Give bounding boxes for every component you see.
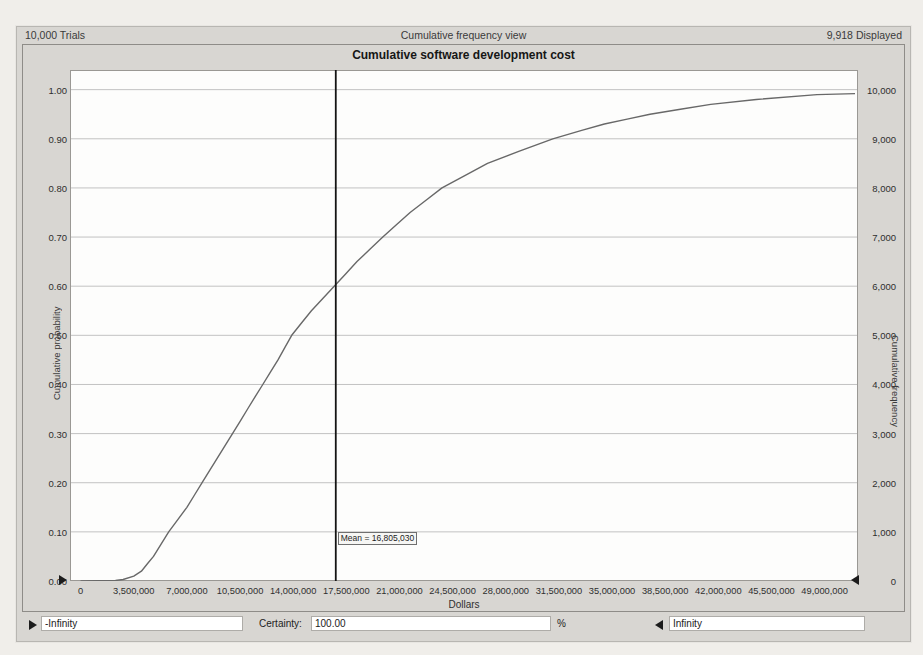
upper-bound-grabber-arrow[interactable] (851, 575, 859, 585)
x-tick-label: 21,000,000 (376, 586, 423, 596)
x-tick-label: 45,500,000 (748, 586, 795, 596)
y-tick-label-left: 0.70 (33, 232, 67, 243)
y-tick-label-right: 2,000 (862, 478, 896, 489)
lower-bound-input[interactable] (41, 616, 243, 631)
chart-title: Cumulative software development cost (23, 48, 904, 62)
y-tick-label-left: 0.10 (33, 527, 67, 538)
x-tick-label: 3,500,000 (113, 586, 154, 596)
chart-frame: Cumulative software development cost 0.0… (22, 44, 905, 612)
percent-sign: % (557, 618, 566, 629)
certainty-input[interactable] (311, 616, 551, 631)
x-tick-label: 24,500,000 (429, 586, 476, 596)
y-tick-label-left: 0.90 (33, 134, 67, 145)
certainty-control-bar: Certainty: % (17, 615, 910, 639)
mean-marker-label[interactable]: Mean = 16,805,030 (338, 532, 418, 545)
y-tick-label-right: 9,000 (862, 134, 896, 145)
displayed-count: 9,918 Displayed (827, 29, 902, 41)
plot-area (70, 70, 858, 581)
y-tick-label-left: 0.20 (33, 478, 67, 489)
x-tick-label: 35,000,000 (589, 586, 636, 596)
y-axis-right-title: Cumulative frequency (889, 291, 901, 471)
y-tick-label-left: 0.80 (33, 183, 67, 194)
y-tick-label-right: 1,000 (862, 527, 896, 538)
x-tick-label: 42,000,000 (695, 586, 742, 596)
x-tick-label: 7,000,000 (166, 586, 207, 596)
x-tick-label: 28,000,000 (482, 586, 529, 596)
x-tick-label: 0 (78, 586, 83, 596)
y-tick-label-right: 8,000 (862, 183, 896, 194)
certainty-label: Certainty: (259, 618, 302, 629)
y-tick-label-right: 0 (862, 576, 896, 587)
x-tick-label: 14,000,000 (270, 586, 317, 596)
forecast-window: 10,000 Trials Cumulative frequency view … (16, 26, 911, 642)
y-axis-left-title: Cumulative probability (51, 268, 63, 438)
x-tick-label: 31,500,000 (536, 586, 583, 596)
x-axis-title: Dollars (70, 599, 858, 610)
y-tick-label-right: 10,000 (862, 85, 896, 96)
y-tick-label-left: 1.00 (33, 85, 67, 96)
x-tick-label: 38,500,000 (642, 586, 689, 596)
upper-bound-arrow-icon[interactable] (655, 620, 663, 630)
upper-bound-input[interactable] (669, 616, 865, 631)
x-tick-label: 10,500,000 (217, 586, 264, 596)
y-tick-label-right: 7,000 (862, 232, 896, 243)
forecast-header: 10,000 Trials Cumulative frequency view … (23, 28, 904, 43)
lower-bound-arrow-icon[interactable] (29, 620, 37, 630)
x-tick-label: 17,500,000 (323, 586, 370, 596)
x-tick-label: 49,000,000 (801, 586, 848, 596)
lower-bound-grabber-arrow[interactable] (59, 575, 67, 585)
view-title: Cumulative frequency view (23, 29, 904, 41)
cumulative-curve-plot (70, 70, 858, 581)
